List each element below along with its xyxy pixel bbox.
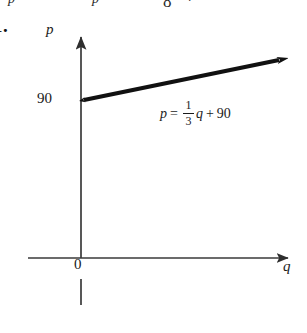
supply-line: [84, 60, 279, 100]
supply-curve-figure: p p 8 q + 9 1. p q 90: [0, 0, 307, 333]
y-axis-label: p: [46, 21, 54, 38]
equation-fraction: 1 3: [183, 99, 194, 128]
equation-plus: +: [206, 106, 214, 122]
fraction-numerator: 1: [183, 99, 193, 112]
equation-equals: =: [170, 106, 178, 122]
equation-intercept: 90: [217, 106, 231, 122]
equation-annotation: p = 1 3 q + 90: [160, 100, 231, 129]
equation-variable: q: [196, 106, 203, 122]
origin-label: 0: [74, 256, 82, 273]
figure-canvas: [0, 0, 307, 333]
y-tick-label-90: 90: [37, 90, 52, 107]
equation-lhs: p: [160, 106, 167, 122]
x-axis-label: q: [283, 258, 291, 275]
fraction-denominator: 3: [183, 115, 193, 128]
